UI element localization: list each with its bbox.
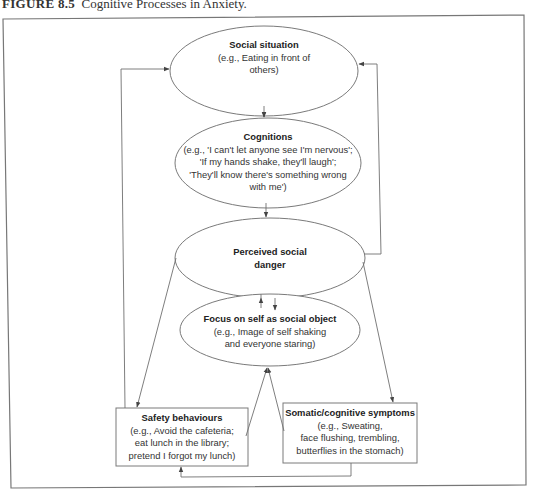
node-social-situation: Social situation (e.g., Eating in front … [174,39,354,77]
node-title: Cognitions [168,131,368,144]
edge-safety-to-social [121,69,169,408]
node-title: Somatic/cognitive symptoms [283,407,417,420]
node-title: Focus on self as social object [185,313,355,326]
node-perceived-danger: Perceived social danger [200,246,340,271]
node-title: Safety behaviours [116,412,248,425]
edge-danger-to-somatic [363,262,393,402]
node-title: Social situation [174,39,354,52]
edge-safety-to-focus [246,368,267,436]
edge-somatic-to-focus [268,368,284,431]
node-cognitions: Cognitions (e.g., 'I can't let anyone se… [168,131,368,194]
node-safety-behaviours: Safety behaviours (e.g., Avoid the cafet… [116,412,248,462]
node-somatic-symptoms: Somatic/cognitive symptoms (e.g., Sweati… [283,407,417,457]
edge-danger-to-safety [137,258,176,407]
node-focus-on-self: Focus on self as social object (e.g., Im… [185,313,355,351]
